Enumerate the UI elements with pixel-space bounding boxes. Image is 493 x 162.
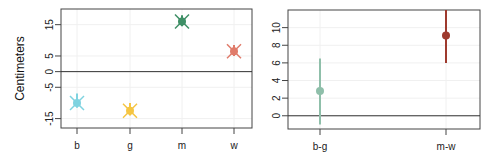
y-tick-label: 8 [272,42,283,48]
x-tick-label: w [229,140,238,151]
x-tick-label: g [127,140,133,151]
x-tick-label: b [74,140,80,151]
data-point [442,32,450,40]
data-point [316,87,324,95]
y-tick-label: 0 [272,113,283,119]
data-point [73,99,81,107]
y-tick-label: 10 [272,22,283,34]
y-tick-label: 0 [45,68,56,74]
x-tick-label: m [178,140,186,151]
plot-frame [61,9,252,128]
data-point [126,107,134,115]
data-point [178,18,186,26]
y-tick-label: 4 [272,77,283,83]
x-tick-label: b-g [313,141,327,152]
y-tick-label: 15 [45,19,56,31]
y-tick-label: 6 [272,60,283,66]
y-tick-label: -15 [45,111,56,126]
left-panel: -15-50515bgmwCentimeters [13,9,252,151]
y-tick-label: -5 [45,82,56,91]
data-point [230,47,238,55]
y-axis-title: Centimeters [13,36,27,101]
y-tick-label: 5 [45,53,56,59]
right-panel: 0246810b-gm-w [272,10,481,152]
x-tick-label: m-w [437,141,457,152]
chart-canvas: -15-50515bgmwCentimeters 0246810b-gm-w [0,0,493,162]
y-tick-label: 2 [272,95,283,101]
